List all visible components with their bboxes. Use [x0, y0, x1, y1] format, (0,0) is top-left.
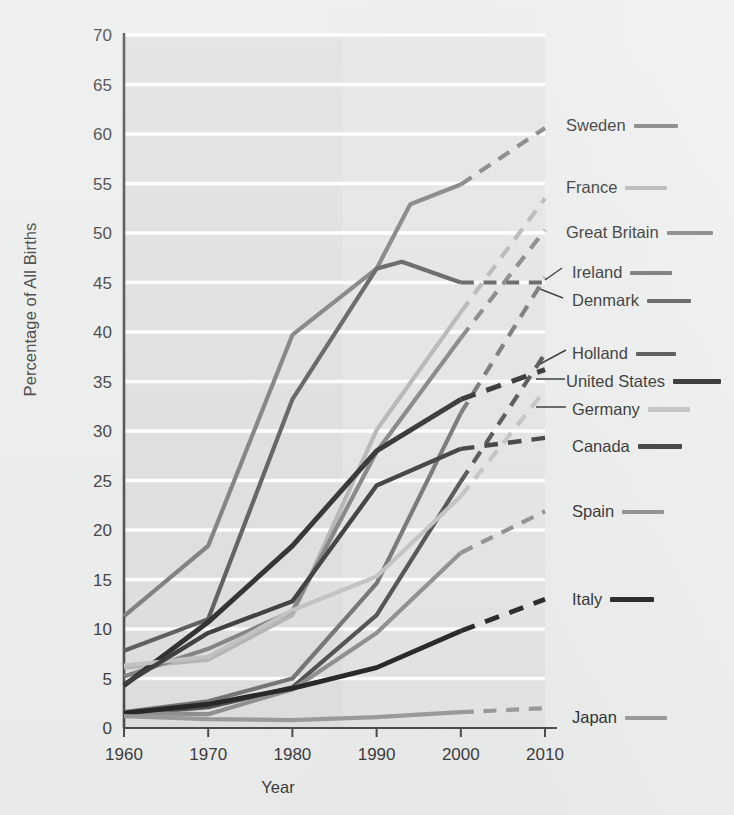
legend-label: Canada — [572, 437, 630, 456]
x-tick-label: 1960 — [105, 745, 143, 764]
legend-label: Holland — [572, 344, 628, 363]
legend-label: Denmark — [572, 291, 639, 310]
legend-item-ireland[interactable]: Ireland — [572, 263, 672, 282]
legend-swatch-icon — [630, 271, 672, 275]
x-tick-label: 1970 — [189, 745, 227, 764]
x-tick-label: 1990 — [358, 745, 396, 764]
legend-item-holland[interactable]: Holland — [572, 344, 676, 363]
legend-swatch-icon — [610, 597, 654, 602]
y-tick-label: 40 — [93, 323, 112, 342]
legend-swatch-icon — [625, 716, 667, 720]
legend-swatch-icon — [667, 231, 713, 235]
legend-label: Germany — [572, 400, 640, 419]
legend-item-germany[interactable]: Germany — [572, 400, 690, 419]
x-tick-label: 2000 — [442, 745, 480, 764]
y-tick-label: 35 — [93, 373, 112, 392]
y-tick-label: 60 — [93, 125, 112, 144]
y-tick-label: 70 — [93, 26, 112, 45]
y-tick-label: 10 — [93, 620, 112, 639]
legend-item-spain[interactable]: Spain — [572, 502, 664, 521]
legend-label: Spain — [572, 502, 614, 521]
x-tick-label: 2010 — [526, 745, 564, 764]
y-tick-label: 50 — [93, 224, 112, 243]
legend-label: France — [566, 178, 617, 197]
x-tick-labels: 196019701980199020002010 — [105, 745, 564, 764]
legend-item-italy[interactable]: Italy — [572, 590, 654, 609]
y-tick-label: 0 — [103, 719, 112, 738]
legend-label: United States — [566, 372, 665, 391]
y-tick-label: 45 — [93, 274, 112, 293]
y-tick-labels: 0510152025303540455055606570 — [93, 26, 112, 738]
legend-swatch-icon — [648, 407, 690, 412]
legend-label: Sweden — [566, 116, 626, 135]
ireland-leader — [545, 268, 562, 280]
y-tick-label: 55 — [93, 175, 112, 194]
legend-swatch-icon — [625, 186, 667, 190]
legend-label: Great Britain — [566, 223, 659, 242]
legend-swatch-icon — [622, 510, 664, 514]
legend-item-canada[interactable]: Canada — [572, 437, 682, 456]
legend-label: Italy — [572, 590, 602, 609]
legend-swatch-icon — [647, 299, 691, 303]
x-tick-marks — [124, 728, 545, 737]
legend-swatch-icon — [673, 379, 721, 385]
chart-figure: Percentage of All Births Year 0510152025… — [0, 0, 734, 815]
y-tick-label: 5 — [103, 670, 112, 689]
legend-swatch-icon — [634, 124, 678, 128]
legend-label: Ireland — [572, 263, 622, 282]
legend-item-sweden[interactable]: Sweden — [566, 116, 678, 135]
x-tick-label: 1980 — [273, 745, 311, 764]
legend-swatch-icon — [636, 352, 676, 356]
legend-item-united-states[interactable]: United States — [566, 372, 721, 391]
y-tick-label: 65 — [93, 76, 112, 95]
legend-label: Japan — [572, 708, 617, 727]
legend-swatch-icon — [638, 444, 682, 449]
legend-item-france[interactable]: France — [566, 178, 667, 197]
legend-item-denmark[interactable]: Denmark — [572, 291, 691, 310]
legend-item-great-britain[interactable]: Great Britain — [566, 223, 713, 242]
y-tick-label: 25 — [93, 472, 112, 491]
y-tick-label: 20 — [93, 521, 112, 540]
y-tick-label: 30 — [93, 422, 112, 441]
legend-item-japan[interactable]: Japan — [572, 708, 667, 727]
y-tick-label: 15 — [93, 571, 112, 590]
